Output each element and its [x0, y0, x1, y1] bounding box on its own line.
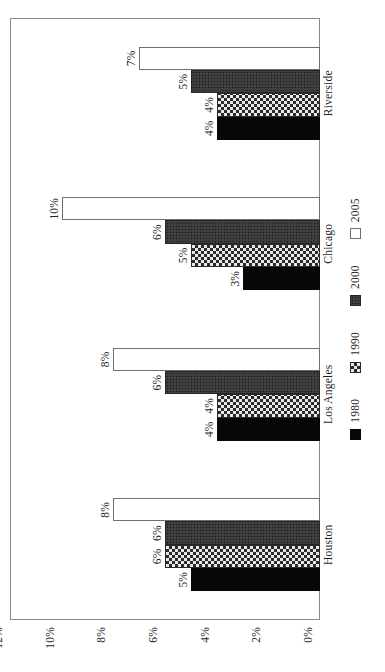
category-label-los-angeles: Los Angeles — [322, 319, 334, 470]
legend-item-1980[interactable]: 1980 — [349, 399, 361, 440]
legend-item-1990[interactable]: 1990 — [349, 332, 361, 373]
y-axis-tick-label: 6% — [147, 620, 159, 643]
y-axis-tick-label: 10% — [44, 620, 56, 649]
bar-houston-2005[interactable]: 8% — [113, 498, 320, 521]
y-axis-tick-label: 0% — [302, 620, 314, 643]
bar-los-angeles-2005[interactable]: 8% — [113, 348, 320, 371]
bar-data-label: 5% — [177, 248, 189, 264]
bar-data-label: 6% — [151, 525, 163, 541]
bar-riverside-1980[interactable]: 4% — [217, 117, 320, 140]
bar-data-label: 5% — [177, 74, 189, 90]
bar-chicago-2000[interactable]: 6% — [165, 220, 320, 243]
bar-houston-2000[interactable]: 6% — [165, 521, 320, 544]
bar-data-label: 7% — [125, 50, 137, 66]
bar-los-angeles-1990[interactable]: 4% — [217, 394, 320, 417]
plot-area: 5%6%6%8%4%4%6%8%3%5%6%10%4%4%5%7% — [10, 18, 320, 620]
category-axis: HoustonLos AngelesChicagoRiverside — [322, 18, 334, 620]
bar-group: 5%6%6%8% — [10, 470, 320, 621]
legend-swatch-2000 — [350, 295, 361, 306]
bar-data-label: 4% — [203, 120, 215, 136]
y-axis-tick-label: 8% — [95, 620, 107, 643]
category-label-houston: Houston — [322, 470, 334, 621]
bar-riverside-1990[interactable]: 4% — [217, 93, 320, 116]
legend-swatch-2005 — [350, 228, 361, 239]
bar-houston-1980[interactable]: 5% — [191, 568, 320, 591]
category-label-riverside: Riverside — [322, 18, 334, 169]
bar-data-label: 10% — [48, 198, 60, 220]
bar-data-label: 4% — [203, 421, 215, 437]
bar-houston-1990[interactable]: 6% — [165, 545, 320, 568]
bar-riverside-2000[interactable]: 5% — [191, 70, 320, 93]
bar-data-label: 8% — [99, 502, 111, 518]
bar-data-label: 6% — [151, 224, 163, 240]
bar-los-angeles-2000[interactable]: 6% — [165, 371, 320, 394]
bar-data-label: 4% — [203, 398, 215, 414]
legend-label: 1990 — [349, 332, 361, 356]
bar-riverside-2005[interactable]: 7% — [139, 47, 320, 70]
bar-group: 4%4%5%7% — [10, 18, 320, 169]
bar-group: 4%4%6%8% — [10, 319, 320, 470]
y-axis-tick-label: 4% — [199, 620, 211, 643]
bar-data-label: 6% — [151, 375, 163, 391]
y-axis-tick-label: 12% — [0, 620, 4, 649]
legend-label: 2005 — [349, 198, 361, 222]
bar-groups: 5%6%6%8%4%4%6%8%3%5%6%10%4%4%5%7% — [10, 18, 320, 620]
category-label-chicago: Chicago — [322, 169, 334, 320]
bar-los-angeles-1980[interactable]: 4% — [217, 418, 320, 441]
bar-set: 4%4%6%8% — [10, 348, 320, 441]
chart-legend: 1980199020002005 — [349, 18, 361, 620]
bar-data-label: 6% — [151, 549, 163, 565]
bar-set: 4%4%5%7% — [10, 47, 320, 140]
legend-label: 2000 — [349, 265, 361, 289]
legend-label: 1980 — [349, 399, 361, 423]
bar-chicago-1990[interactable]: 5% — [191, 244, 320, 267]
bar-chicago-1980[interactable]: 3% — [243, 267, 321, 290]
legend-swatch-1980 — [350, 429, 361, 440]
legend-item-2005[interactable]: 2005 — [349, 198, 361, 239]
bar-data-label: 8% — [99, 351, 111, 367]
bar-data-label: 4% — [203, 97, 215, 113]
y-axis-tick-label: 2% — [250, 620, 262, 643]
bar-data-label: 5% — [177, 572, 189, 588]
bar-data-label: 3% — [229, 271, 241, 287]
legend-swatch-1990 — [350, 362, 361, 373]
bar-chart-figure: 0%2%4%6%8%10%12% 5%6%6%8%4%4%6%8%3%5%6%1… — [0, 0, 385, 672]
rotated-chart-stage: 0%2%4%6%8%10%12% 5%6%6%8%4%4%6%8%3%5%6%1… — [0, 0, 385, 672]
bar-set: 5%6%6%8% — [10, 498, 320, 591]
bar-set: 3%5%6%10% — [10, 197, 320, 290]
legend-item-2000[interactable]: 2000 — [349, 265, 361, 306]
bar-group: 3%5%6%10% — [10, 169, 320, 320]
bar-chicago-2005[interactable]: 10% — [62, 197, 320, 220]
